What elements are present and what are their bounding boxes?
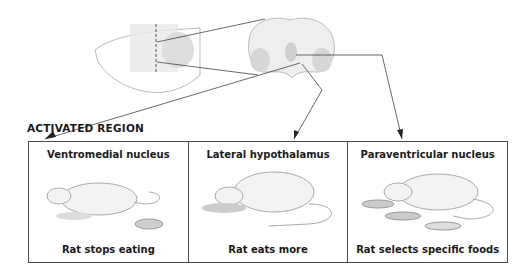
panel-lateral-hypothalamus: Lateral hypothalamus Rat eats more [189,142,349,262]
panel-effect: Rat selects specific foods [348,244,507,255]
section-label: ACTIVATED REGION [27,122,144,134]
panel-effect: Rat eats more [189,244,348,255]
rat-illustration [348,164,508,234]
rat-illustration [189,164,349,234]
panel-region-title: Ventromedial nucleus [29,149,188,160]
activation-panels: Ventromedial nucleus Rat stops eating La… [28,141,508,263]
rat-illustration [29,164,189,234]
panel-ventromedial: Ventromedial nucleus Rat stops eating [29,142,189,262]
panel-region-title: Lateral hypothalamus [189,149,348,160]
panel-paraventricular: Paraventricular nucleus Rat selects spec… [348,142,507,262]
panel-effect: Rat stops eating [29,244,188,255]
panel-region-title: Paraventricular nucleus [348,149,507,160]
